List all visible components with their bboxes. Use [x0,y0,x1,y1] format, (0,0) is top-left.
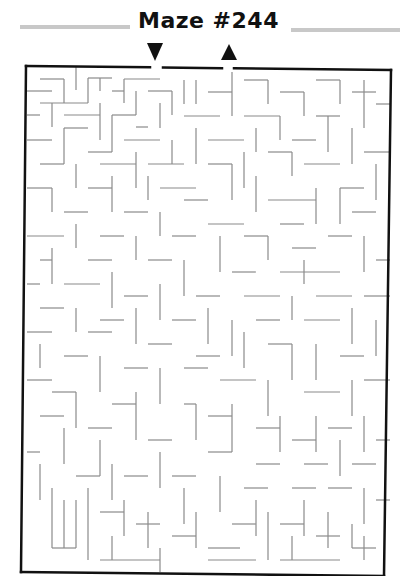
maze-walls [27,67,390,572]
frame-top-middle [163,68,222,69]
exit-arrow-up-icon [221,44,237,60]
frame-bottom [21,572,384,576]
frame-left [21,66,26,572]
entrance-arrow-down-icon [147,43,163,61]
maze-board[interactable] [0,0,417,576]
frame-top-left [26,66,150,67]
frame-top-right [234,68,391,70]
